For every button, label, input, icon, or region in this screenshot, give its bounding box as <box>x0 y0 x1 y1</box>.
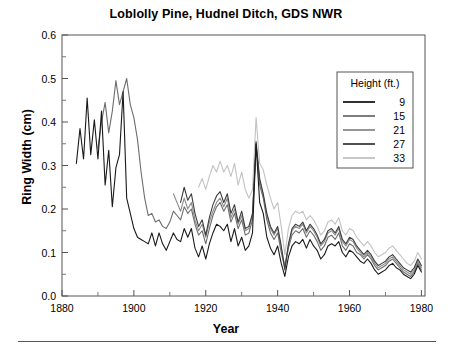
x-tick-label: 1940 <box>266 302 290 314</box>
legend-label-21: 21 <box>393 124 405 136</box>
legend-label-15: 15 <box>393 110 405 122</box>
y-tick-label: 0.3 <box>41 160 56 172</box>
y-tick-label: 0.2 <box>41 203 56 215</box>
legend-label-33: 33 <box>393 152 405 164</box>
x-tick-label: 1980 <box>410 302 434 314</box>
y-tick-label: 0.5 <box>41 73 56 85</box>
legend-title: Height (ft.) <box>350 77 399 89</box>
plot-area: 0.00.10.20.30.40.50.61880190019201940196… <box>0 0 452 350</box>
y-tick-label: 0.4 <box>41 116 56 128</box>
y-tick-label: 0.0 <box>41 290 56 302</box>
x-tick-label: 1900 <box>122 302 146 314</box>
figure-container: Loblolly Pine, Hudnel Ditch, GDS NWR Rin… <box>0 0 452 350</box>
legend-box[interactable]: Height (ft.)915212733 <box>337 72 413 168</box>
y-tick-label: 0.6 <box>41 29 56 41</box>
x-tick-label: 1880 <box>50 302 74 314</box>
footer-divider <box>18 341 436 342</box>
x-tick-label: 1960 <box>338 302 362 314</box>
legend-label-27: 27 <box>393 138 405 150</box>
legend-label-9: 9 <box>399 96 405 108</box>
y-tick-label: 0.1 <box>41 247 56 259</box>
x-tick-label: 1920 <box>194 302 218 314</box>
